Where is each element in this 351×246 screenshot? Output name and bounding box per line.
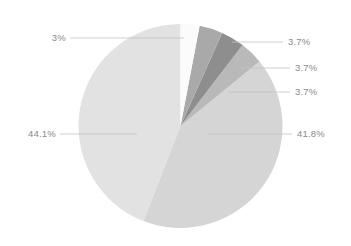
pie-chart: 3% 3.7% 3.7% 3.7% 41.8% 44.1% [0, 0, 351, 246]
pie-label-3-7-c: 3.7% [295, 87, 317, 97]
pie-label-3-7-b: 3.7% [295, 63, 317, 73]
pie-label-41-8: 41.8% [297, 129, 325, 139]
pie-label-3: 3% [32, 33, 66, 43]
pie-label-44-1: 44.1% [14, 129, 56, 139]
pie-label-3-7-a: 3.7% [288, 37, 310, 47]
